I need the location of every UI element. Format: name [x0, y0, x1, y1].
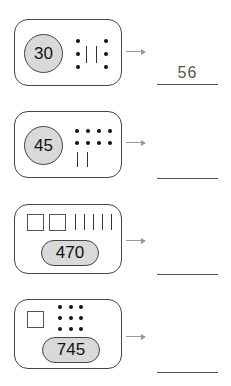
right-arrow-icon: [126, 51, 144, 52]
square-hundred: [27, 214, 44, 231]
number-circle: 30: [24, 34, 63, 73]
number-label: 470: [56, 243, 84, 263]
dot: [86, 129, 90, 133]
stick: [96, 46, 97, 63]
dot: [79, 327, 83, 331]
stick: [77, 152, 78, 167]
stick: [75, 214, 76, 230]
dot: [75, 129, 79, 133]
dot: [58, 327, 62, 331]
stick: [84, 214, 85, 230]
problem-card-2: 45: [14, 111, 122, 178]
right-arrow-icon: [126, 142, 144, 143]
number-label: 45: [34, 136, 53, 156]
dot: [104, 65, 108, 69]
answer-line[interactable]: [157, 372, 218, 373]
dot: [108, 141, 112, 145]
answer-line[interactable]: [157, 84, 218, 85]
dot: [58, 316, 62, 320]
dot: [76, 39, 80, 43]
dot: [97, 129, 101, 133]
problem-card-3: 470: [14, 204, 122, 274]
dot: [108, 129, 112, 133]
square-hundred: [49, 214, 66, 231]
number-label: 30: [34, 44, 53, 64]
number-circle: 45: [24, 126, 63, 165]
problem-card-4: 745: [14, 299, 122, 369]
number-label: 745: [57, 340, 85, 360]
dot: [79, 316, 83, 320]
stick: [87, 152, 88, 167]
dot: [69, 316, 73, 320]
answer-line[interactable]: [157, 274, 218, 275]
right-arrow-icon: [126, 240, 144, 241]
dot: [69, 327, 73, 331]
dot: [58, 305, 62, 309]
stick: [102, 214, 103, 230]
number-pill: 470: [41, 240, 99, 266]
answer-text[interactable]: 56: [157, 64, 218, 82]
square-hundred: [27, 311, 44, 328]
dot: [104, 39, 108, 43]
dot: [97, 141, 101, 145]
dot: [76, 52, 80, 56]
dot: [79, 305, 83, 309]
stick: [93, 214, 94, 230]
number-pill: 745: [42, 337, 100, 363]
dot: [86, 141, 90, 145]
answer-line[interactable]: [157, 178, 218, 179]
dot: [75, 141, 79, 145]
stick: [86, 46, 87, 63]
dot: [104, 52, 108, 56]
dot: [69, 305, 73, 309]
problem-card-1: 30: [14, 19, 122, 86]
right-arrow-icon: [126, 336, 144, 337]
dot: [76, 65, 80, 69]
stick: [111, 214, 112, 230]
